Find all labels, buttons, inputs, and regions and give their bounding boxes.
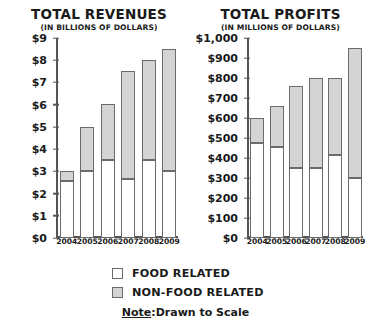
bar-segment-non-food [162,49,176,171]
x-tick-label: 2004 [247,237,268,247]
bar-segment-non-food [250,118,264,143]
bar-segment-food [309,168,323,238]
bar-segment-food [162,171,176,238]
bar-segment-food [289,168,303,238]
bar-segment-food [142,160,156,238]
charts-container: TOTAL REVENUES (IN BILLIONS OF DOLLARS) … [0,0,371,265]
bar-group [289,38,303,238]
bars-total-revenues [56,38,178,238]
bar-segment-non-food [101,104,115,161]
bar-segment-food [270,147,284,238]
y-tick-label: $7 [32,77,47,88]
note-keyword: Note [122,306,151,319]
bar-segment-food [250,143,264,238]
legend-label-food-related: FOOD RELATED [132,267,230,280]
chart-figure: TOTAL REVENUES (IN BILLIONS OF DOLLARS) … [0,0,371,334]
bar-segment-non-food [328,78,342,155]
y-axis-labels-total-revenues: $0$1$2$3$4$5$6$7$8$9 [8,38,47,238]
legend-swatch-non-food-icon [112,287,123,298]
legend-item-non-food-related: NON-FOOD RELATED [0,285,371,300]
y-tick-label: $8 [32,55,47,66]
bar-segment-non-food [309,78,323,168]
y-tick-label: $1 [32,210,47,221]
bar-segment-food [101,160,115,238]
bar-group [309,38,323,238]
bar-group [142,38,156,238]
bar-segment-food [328,155,342,238]
x-tick-label: 2004 [56,237,77,247]
y-tick-label: $0 [223,233,238,244]
chart-panel-total-revenues: TOTAL REVENUES (IN BILLIONS OF DOLLARS) … [8,0,190,265]
bar-segment-non-food [348,48,362,178]
note-body: Drawn to Scale [156,306,250,319]
bar-segment-non-food [142,60,156,160]
y-tick-label: $0 [32,233,47,244]
bar-segment-non-food [270,106,284,147]
x-tick-label: 2006 [286,237,307,247]
bar-segment-food [60,181,74,238]
x-axis-labels-total-revenues: 200420052006200720082009 [56,237,178,251]
y-tick-label: $5 [32,121,47,132]
y-tick-label: $600 [207,113,238,124]
y-tick-label: $1,000 [196,33,238,44]
legend-item-food-related: FOOD RELATED [0,266,371,281]
plot-area-total-profits: $0$100$200$300$400$500$600$700$800$900$1… [190,38,371,265]
y-tick-label: $300 [207,173,238,184]
chart-title-total-revenues: TOTAL REVENUES [8,7,190,22]
bar-group [328,38,342,238]
chart-legend: FOOD RELATED NON-FOOD RELATED Note:Drawn… [0,266,371,319]
y-tick-label: $800 [207,73,238,84]
y-tick-label: $9 [32,33,47,44]
bar-group [162,38,176,238]
bar-group [270,38,284,238]
chart-title-total-profits: TOTAL PROFITS [190,7,371,22]
y-tick-label: $700 [207,93,238,104]
bar-group [101,38,115,238]
x-tick-label: 2008 [138,237,159,247]
y-axis-labels-total-profits: $0$100$200$300$400$500$600$700$800$900$1… [190,38,238,238]
bar-segment-non-food [289,86,303,168]
x-tick-label: 2007 [305,237,326,247]
y-tick-label: $3 [32,166,47,177]
bar-group [60,38,74,238]
chart-note: Note:Drawn to Scale [0,306,371,319]
bar-segment-food [121,179,135,238]
y-tick-label: $6 [32,99,47,110]
x-tick-label: 2009 [159,237,180,247]
bar-segment-food [80,171,94,238]
x-tick-label: 2009 [344,237,365,247]
bar-segment-non-food [80,127,94,171]
y-tick-label: $900 [207,53,238,64]
y-tick-label: $2 [32,188,47,199]
bar-segment-non-food [121,71,135,179]
y-tick-label: $500 [207,133,238,144]
x-tick-label: 2005 [77,237,98,247]
bar-group [348,38,362,238]
x-tick-label: 2005 [266,237,287,247]
y-tick-label: $4 [32,144,47,155]
x-tick-label: 2007 [118,237,139,247]
x-tick-label: 2006 [97,237,118,247]
x-axis-labels-total-profits: 200420052006200720082009 [247,237,363,251]
plot-area-total-revenues: $0$1$2$3$4$5$6$7$8$9 2004200520062007200… [8,38,190,265]
bar-segment-non-food [60,171,74,181]
legend-label-non-food-related: NON-FOOD RELATED [132,286,264,299]
bar-segment-food [348,178,362,238]
bar-group [121,38,135,238]
x-tick-label: 2008 [325,237,346,247]
y-tick-label: $400 [207,153,238,164]
legend-swatch-food-icon [112,268,123,279]
bars-total-profits [247,38,363,238]
bar-group [80,38,94,238]
bar-group [250,38,264,238]
chart-panel-total-profits: TOTAL PROFITS (IN MILLIONS OF DOLLARS) $… [190,0,371,265]
y-tick-label: $200 [207,193,238,204]
y-tick-label: $100 [207,213,238,224]
